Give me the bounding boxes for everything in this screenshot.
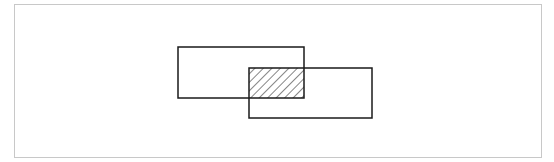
intersection-diagram <box>0 0 554 162</box>
overlap-region <box>249 68 304 98</box>
